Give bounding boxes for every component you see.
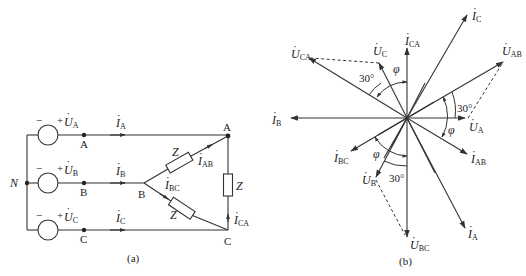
dash-ubc (376, 180, 405, 235)
label-uc: UC · (373, 37, 387, 59)
svg-text:·: · (166, 171, 170, 183)
svg-text:A: A (80, 138, 88, 150)
svg-text:−: − (36, 162, 42, 174)
svg-text:+: + (57, 114, 63, 126)
impedance-ab (166, 152, 193, 173)
label-ibc: IBC · (333, 144, 349, 166)
svg-text:−: − (36, 209, 42, 221)
svg-text:−: − (36, 114, 42, 126)
svg-text:·: · (117, 109, 121, 121)
svg-text:+: + (57, 209, 63, 221)
svg-text:φ: φ (373, 147, 380, 161)
source-phase-a: − + UA · A IA · (27, 107, 228, 150)
label-ia: IA · (467, 220, 478, 242)
svg-text:Z: Z (170, 208, 177, 222)
label-uab: UAB · (502, 37, 522, 59)
voltage-source-b (38, 173, 58, 193)
svg-text:·: · (412, 231, 416, 243)
terminal-c (82, 228, 86, 232)
terminal-a (82, 133, 86, 137)
svg-text:30°: 30° (389, 172, 404, 184)
svg-text:B: B (138, 188, 145, 200)
caption-a: (a) (127, 252, 140, 265)
svg-text:·: · (117, 204, 121, 216)
delta-load: A B C Z IAB · Z IBC · Z ICA (138, 121, 249, 247)
svg-text:·: · (67, 202, 71, 214)
svg-text:C: C (224, 235, 231, 247)
svg-text:·: · (472, 145, 476, 157)
svg-text:·: · (471, 113, 475, 125)
svg-text:·: · (375, 37, 379, 49)
label-ua: UA · (469, 113, 484, 135)
label-ic: IC · (471, 2, 481, 24)
svg-text:B: B (80, 186, 87, 198)
dash-uca (310, 58, 379, 63)
label-ub: UB · (362, 166, 376, 188)
svg-text:·: · (406, 27, 410, 39)
label-uca: UCA · (291, 40, 311, 62)
voltage-source-a (38, 125, 58, 145)
label-iab: IAB · (470, 145, 486, 167)
voltage-source-c (38, 220, 58, 240)
neutral-label: N (9, 176, 19, 190)
svg-text:+: + (57, 162, 63, 174)
caption-b: (b) (399, 255, 412, 268)
label-ib: IB · (271, 106, 281, 128)
svg-text:Z: Z (236, 179, 243, 193)
svg-text:·: · (67, 107, 71, 119)
svg-text:φ: φ (448, 123, 455, 137)
svg-text:·: · (473, 2, 477, 14)
svg-text:·: · (504, 37, 508, 49)
figure-canvas: N − + UA · A IA · − + UB · B (0, 0, 526, 276)
svg-text:·: · (117, 157, 121, 169)
svg-text:A: A (223, 121, 231, 133)
svg-text:·: · (67, 155, 71, 167)
svg-text:·: · (235, 206, 239, 218)
circuit-diagram-a: N − + UA · A IA · − + UB · B (9, 107, 249, 265)
terminal-b (82, 181, 86, 185)
source-phase-b: − + UB · B IB · (27, 155, 144, 198)
svg-text:30°: 30° (359, 72, 374, 84)
svg-text:φ: φ (393, 62, 400, 76)
label-ica: ICA · (404, 27, 420, 49)
label-ubc: UBC · (410, 231, 429, 253)
svg-text:·: · (273, 106, 277, 118)
phasor-diagram-b: 30° φ 30° φ φ 30° IC · ICA · UC · UCA · … (271, 2, 522, 268)
svg-text:·: · (469, 220, 473, 232)
impedance-ca (224, 174, 233, 196)
svg-text:C: C (80, 233, 87, 245)
svg-text:·: · (364, 166, 368, 178)
svg-text:·: · (335, 144, 339, 156)
svg-text:·: · (199, 147, 203, 159)
source-phase-c: − + UC · C IC · (27, 202, 228, 245)
svg-text:Z: Z (172, 145, 179, 159)
svg-text:·: · (293, 40, 297, 52)
